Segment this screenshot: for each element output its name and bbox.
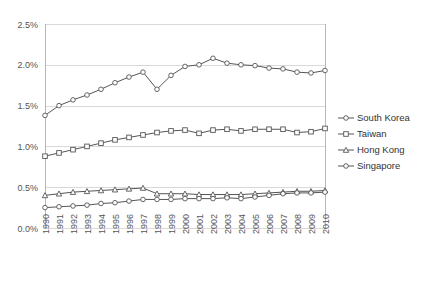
y-axis-tick-label: 0.0% <box>17 224 38 234</box>
x-axis-tick-label: 1993 <box>83 214 93 234</box>
data-point-marker <box>253 127 258 132</box>
data-point-marker <box>211 56 216 61</box>
data-point-marker <box>43 113 48 118</box>
data-point-marker <box>169 197 174 202</box>
data-point-marker <box>57 151 62 156</box>
x-axis-tick-label: 1992 <box>69 214 79 234</box>
legend-item-label: Taiwan <box>357 128 387 139</box>
x-axis-tick-label: 2000 <box>181 214 191 234</box>
data-point-marker <box>141 197 146 202</box>
data-point-marker <box>239 129 244 134</box>
data-point-marker <box>141 133 146 138</box>
data-point-marker <box>267 66 272 71</box>
data-point-marker <box>85 203 90 208</box>
x-axis-tick-label: 2008 <box>293 214 303 234</box>
data-point-marker <box>295 70 300 75</box>
data-point-marker <box>225 196 230 201</box>
data-point-marker <box>113 200 118 205</box>
x-axis-tick-label: 2010 <box>321 214 331 234</box>
data-point-marker <box>71 147 76 152</box>
x-axis-labels: 1990199119921993199419951996199719981999… <box>41 214 331 234</box>
line-chart: 0.0%0.5%1.0%1.5%2.0%2.5% 199019911992199… <box>0 0 439 282</box>
data-point-marker <box>323 126 328 131</box>
data-point-marker <box>344 164 349 169</box>
x-axis-tick-label: 2006 <box>265 214 275 234</box>
data-point-marker <box>211 128 216 133</box>
x-axis-tick-label: 1998 <box>153 214 163 234</box>
y-axis-tick-label: 1.0% <box>17 142 38 152</box>
legend-item-label: Hong Kong <box>357 144 405 155</box>
data-point-marker <box>127 135 132 140</box>
y-axis-tick-label: 1.5% <box>17 101 38 111</box>
data-point-marker <box>127 199 132 204</box>
data-point-marker <box>99 201 104 206</box>
y-axis-labels: 0.0%0.5%1.0%1.5%2.0%2.5% <box>17 20 38 234</box>
legend-item-singapore[interactable]: Singapore <box>338 160 400 171</box>
data-point-marker <box>239 196 244 201</box>
data-point-marker <box>197 196 202 201</box>
data-point-marker <box>295 191 300 196</box>
data-point-marker <box>225 127 230 132</box>
data-point-marker <box>344 132 349 137</box>
legend-item-taiwan[interactable]: Taiwan <box>338 128 387 139</box>
data-point-marker <box>57 103 62 108</box>
data-point-marker <box>197 131 202 136</box>
data-point-marker <box>344 116 349 121</box>
data-point-marker <box>183 128 188 133</box>
x-axis-tick-label: 2002 <box>209 214 219 234</box>
x-axis-tick-label: 2009 <box>307 214 317 234</box>
x-axis-tick-label: 2001 <box>195 214 205 234</box>
data-point-marker <box>323 190 328 195</box>
legend-item-label: Singapore <box>357 160 400 171</box>
data-point-marker <box>71 204 76 209</box>
data-point-marker <box>155 197 160 202</box>
data-point-marker <box>43 154 48 159</box>
data-point-marker <box>113 138 118 143</box>
data-point-marker <box>127 75 132 80</box>
y-axis-tick-label: 2.5% <box>17 20 38 30</box>
x-axis-tick-label: 2003 <box>223 214 233 234</box>
x-axis-tick-label: 2004 <box>237 214 247 234</box>
data-point-marker <box>197 63 202 68</box>
data-point-marker <box>183 64 188 69</box>
data-point-marker <box>253 195 258 200</box>
data-point-marker <box>309 191 314 196</box>
chart-legend: South KoreaTaiwanHong KongSingapore <box>338 112 411 171</box>
data-point-marker <box>267 127 272 132</box>
data-point-marker <box>99 87 104 92</box>
data-point-marker <box>183 196 188 201</box>
x-axis-tick-label: 2005 <box>251 214 261 234</box>
x-axis-tick-label: 1990 <box>41 214 51 234</box>
data-point-marker <box>239 63 244 68</box>
data-point-marker <box>309 129 314 134</box>
x-axis-tick-label: 2007 <box>279 214 289 234</box>
data-point-marker <box>99 141 104 146</box>
data-point-marker <box>309 71 314 76</box>
legend-item-south-korea[interactable]: South Korea <box>338 112 411 123</box>
data-point-marker <box>43 205 48 210</box>
data-point-marker <box>141 70 146 75</box>
x-axis-tick-label: 1991 <box>55 214 65 234</box>
data-point-marker <box>323 68 328 73</box>
data-point-marker <box>295 130 300 135</box>
series-hong-kong <box>42 185 327 197</box>
data-point-marker <box>85 144 90 149</box>
data-point-marker <box>225 61 230 66</box>
y-axis-tick-label: 2.0% <box>17 60 38 70</box>
plot-series <box>42 56 327 210</box>
data-point-marker <box>71 98 76 103</box>
x-axis-tick-label: 1995 <box>111 214 121 234</box>
legend-item-hong-kong[interactable]: Hong Kong <box>338 144 405 155</box>
data-point-marker <box>281 127 286 132</box>
series-taiwan <box>43 126 328 158</box>
data-point-marker <box>113 80 118 85</box>
data-point-marker <box>211 196 216 201</box>
y-axis-tick-label: 0.5% <box>17 183 38 193</box>
data-point-marker <box>169 73 174 78</box>
data-point-marker <box>155 87 160 92</box>
data-point-marker <box>169 129 174 134</box>
data-point-marker <box>253 63 258 68</box>
data-point-marker <box>267 193 272 198</box>
chart-canvas: 0.0%0.5%1.0%1.5%2.0%2.5% 199019911992199… <box>0 0 439 282</box>
x-axis-tick-label: 1997 <box>139 214 149 234</box>
